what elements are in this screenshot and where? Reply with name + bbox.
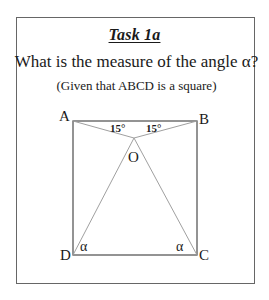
angle-label-odc-alpha: α: [80, 239, 88, 254]
vertex-label-a: A: [59, 108, 70, 124]
segment-od: [73, 138, 134, 255]
square-abcd: [73, 121, 197, 255]
angle-label-oba: 15°: [146, 122, 161, 134]
angle-label-oab: 15°: [110, 122, 125, 134]
geometry-diagram: A B C D O 15° 15° α α: [0, 0, 269, 300]
vertex-label-d: D: [60, 247, 71, 263]
segment-bo: [134, 121, 197, 138]
angle-label-ocd-alpha: α: [176, 239, 184, 254]
vertex-label-c: C: [199, 247, 209, 263]
vertex-label-b: B: [199, 111, 209, 127]
segment-oc: [134, 138, 197, 255]
vertex-label-o: O: [128, 149, 139, 165]
